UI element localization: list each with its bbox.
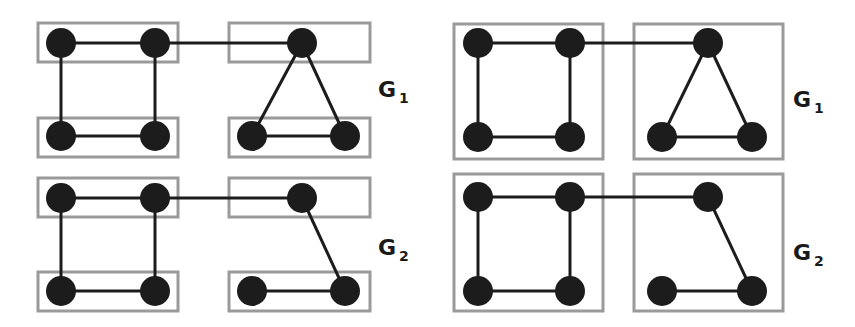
graph-node [287,183,317,213]
panel-right-top: G1 [454,24,824,159]
graph-node [140,183,170,213]
graph-node [463,122,493,152]
graph-edge [302,198,345,291]
graph-node [737,122,767,152]
graph-edge [708,197,752,291]
panel-left-bottom: G2 [38,178,409,311]
graph-node [330,276,360,306]
graph-node [46,121,76,151]
graph-node [463,28,493,58]
graph-node [693,182,723,212]
graph-node [46,28,76,58]
graph-node [693,28,723,58]
panel-right-bottom: G2 [454,174,824,311]
graph-node [237,121,267,151]
graph-label: G1 [378,77,409,106]
graph-node [555,182,585,212]
graph-node [737,276,767,306]
graph-node [140,121,170,151]
graph-label: G2 [378,235,409,264]
graph-label: G1 [793,87,824,116]
graph-node [140,276,170,306]
graph-node [463,276,493,306]
graph-node [46,183,76,213]
graph-node [463,182,493,212]
graph-node [237,276,267,306]
graph-node [46,276,76,306]
graph-node [330,121,360,151]
graph-edge [708,43,752,137]
graph-edge [662,43,708,137]
graph-edge [252,43,302,136]
graph-label: G2 [793,240,824,269]
graph-node [140,28,170,58]
graph-partition-diagram: G1G2G1G2 [0,0,855,327]
graph-node [555,122,585,152]
panel-left-top: G1 [38,23,409,157]
graph-edge [302,43,345,136]
graph-node [287,28,317,58]
graph-node [647,276,677,306]
graph-node [555,28,585,58]
graph-node [647,122,677,152]
graph-node [555,276,585,306]
